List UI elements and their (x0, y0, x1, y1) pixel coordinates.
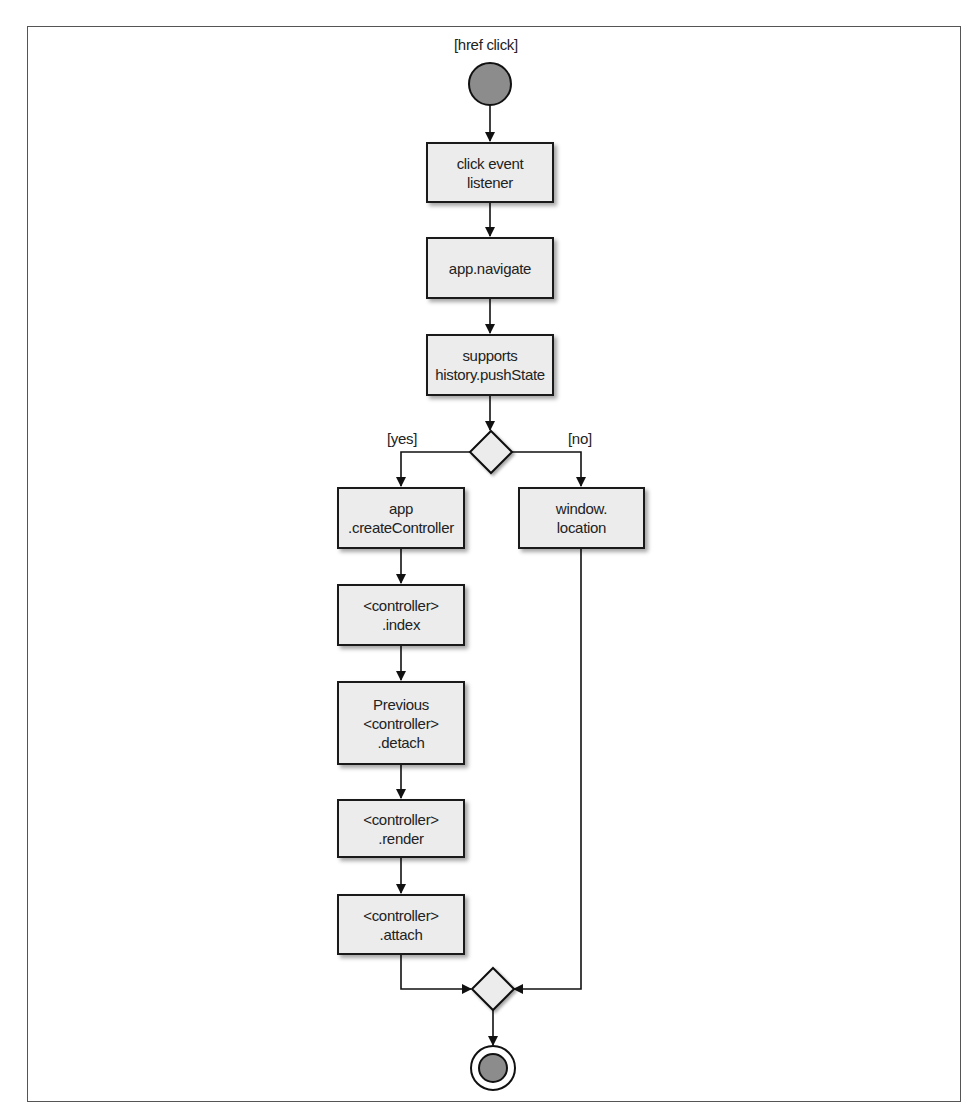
edge-n9-merge (401, 955, 471, 989)
merge-diamond (472, 968, 514, 1010)
decision-diamond (470, 431, 512, 473)
edge-n5-merge (514, 549, 581, 989)
node-app-navigate: app.navigate (426, 237, 554, 299)
node-previous-controller-detach: Previous <controller> .detach (337, 681, 465, 765)
no-branch-label: [no] (568, 430, 592, 447)
end-node (471, 1046, 515, 1090)
node-click-event-listener: click event listener (426, 142, 554, 203)
edge-decision-yes (401, 452, 470, 486)
node-controller-index: <controller> .index (337, 584, 465, 646)
node-window-location: window. location (518, 487, 645, 549)
yes-branch-label: [yes] (387, 430, 417, 447)
node-app-create-controller: app .createController (337, 487, 465, 549)
node-controller-attach: <controller> .attach (337, 894, 465, 955)
node-supports-pushstate: supports history.pushState (426, 334, 554, 396)
edge-decision-no (512, 452, 581, 486)
start-label: [href click] (454, 36, 518, 53)
start-node (469, 63, 511, 105)
node-controller-render: <controller> .render (337, 799, 465, 858)
